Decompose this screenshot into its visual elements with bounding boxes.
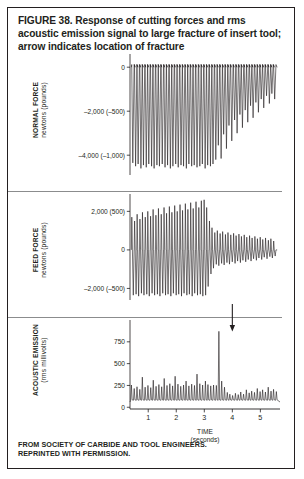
acoustic-emission-tick-label-1: 500 — [114, 360, 125, 367]
x-axis-tick-label-3: 4 — [230, 413, 234, 422]
feed-force-tick-label-0: 2,000 (500) — [91, 208, 125, 216]
normal-force-tick-label-0: 0 — [121, 64, 125, 71]
x-axis-title: TIME — [197, 428, 213, 435]
normal-force-trace — [131, 65, 277, 169]
normal-force-tick-label-1: –2,000 (–500) — [84, 108, 125, 116]
feed-force-axis-title-line2: newtons (pounds) — [40, 207, 48, 293]
acoustic-emission-trace — [130, 331, 280, 402]
normal-force-axis-title-line2: newtons (pounds) — [40, 62, 48, 158]
feed-force-tick-label-1: 0 — [121, 246, 125, 253]
normal-force-tick-label-2: –4,000 (–1,000) — [78, 152, 125, 160]
feed-force-trace — [131, 200, 277, 296]
feed-force-axis-title: FEED FORCE newtons (pounds) — [32, 207, 48, 293]
acoustic-emission-tick-label-3: 0 — [121, 404, 125, 411]
x-axis-tick-label-1: 2 — [174, 413, 178, 422]
acoustic-emission-tick-label-2: 250 — [114, 382, 125, 389]
credit-line-2: REPRINTED WITH PERMISSION. — [18, 449, 278, 458]
x-axis-tick-label-4: 5 — [258, 413, 262, 422]
acoustic-emission-tick-label-0: 750 — [114, 338, 125, 345]
acoustic-emission-axis-title-line2: (rms millivolts) — [40, 312, 48, 408]
x-axis-tick-label-2: 3 — [202, 413, 206, 422]
feed-force-tick-label-2: –2,000 (–500) — [84, 285, 125, 293]
figure-credit: FROM SOCIETY OF CARBIDE AND TOOL ENGINEE… — [18, 440, 278, 459]
feed-force-axis-title-line1: FEED FORCE — [32, 207, 40, 293]
normal-force-axis-title: NORMAL FORCE newtons (pounds) — [32, 62, 48, 158]
x-axis-tick-label-0: 1 — [146, 413, 150, 422]
acoustic-emission-axis-title-line1: ACOUSTIC EMISSION — [32, 312, 40, 408]
plot-stack: NORMAL FORCE newtons (pounds) FEED FORCE… — [8, 8, 296, 470]
normal-force-axis-title-line1: NORMAL FORCE — [32, 62, 40, 158]
fracture-arrow-head — [230, 325, 235, 332]
credit-line-1: FROM SOCIETY OF CARBIDE AND TOOL ENGINEE… — [18, 440, 278, 449]
figure-plot-area: 0–2,000 (–500)–4,000 (–1,000)2,000 (500)… — [8, 8, 296, 470]
figure-frame: FIGURE 38. Response of cutting forces an… — [7, 7, 295, 469]
acoustic-emission-axis-title: ACOUSTIC EMISSION (rms millivolts) — [32, 312, 48, 408]
